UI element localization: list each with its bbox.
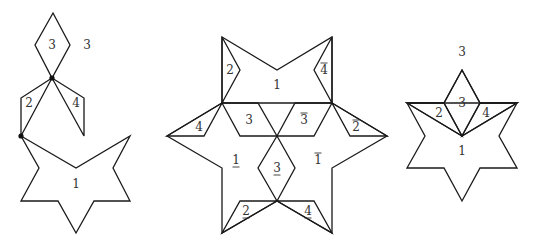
piece-2-label: 2 (435, 106, 443, 120)
piece-2-label: 2 (25, 96, 33, 110)
right-figure: 32413 (407, 45, 517, 202)
piece-4bar-top-label: 4 (320, 63, 328, 77)
piece-1-star-label: 1 (72, 177, 80, 191)
piece-3bar-label: 3 (300, 113, 308, 127)
piece-2bar-right-label: 2 (352, 120, 360, 134)
piece-label: 3 (83, 38, 91, 52)
piece-label: 1 (314, 153, 322, 167)
piece-4-label: 4 (72, 96, 80, 110)
piece-label: 3 (458, 45, 466, 59)
vertex-dot (49, 75, 54, 80)
middle-figure: 241334232411 (167, 37, 387, 233)
piece-3-label: 3 (245, 113, 253, 127)
piece-2-top-label: 2 (226, 63, 234, 77)
tiling-diagram: 3241324133423241132413 (0, 0, 537, 251)
piece-label: 1 (232, 153, 240, 167)
piece-2under-label: 2 (242, 204, 250, 218)
piece-3-diamond-label: 3 (458, 96, 466, 110)
piece-3under-diamond-label: 3 (273, 161, 281, 175)
piece-4under-label: 4 (304, 204, 312, 218)
vertex-dot (18, 133, 23, 138)
left-figure: 32413 (18, 13, 130, 233)
piece-4-left-label: 4 (195, 120, 203, 134)
piece-3-diamond-label: 3 (48, 38, 56, 52)
piece-1-label: 1 (458, 144, 466, 158)
piece-4-label: 4 (482, 106, 490, 120)
center-line-label: 1 (273, 78, 281, 92)
